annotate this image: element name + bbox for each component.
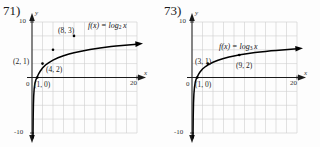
x-axis-label-71: x [144,70,147,77]
y-axis-label-71: y [35,10,38,17]
point-label-4-2-71: (4, 2) [46,66,62,74]
figure-71: 71) [0,0,160,147]
origin-label-73: 0 [186,81,190,88]
y-tick-10-71: 10 [19,18,26,25]
y-tick-neg10-73: -10 [174,129,183,136]
function-label-prefix-71: f(x) = log [88,21,119,30]
point-4-2 [52,49,55,52]
x-tick-20-73: 20 [290,80,297,87]
function-label-71: f(x) = log2x [88,22,127,30]
point-label-9-2-73: (9, 2) [236,62,252,70]
function-label-73: f(x) = log3x [219,43,258,51]
point-label-1-0-71: (1, 0) [34,81,50,89]
y-tick-neg10-71: -10 [14,129,23,136]
curve-log2 [33,44,138,138]
point-2-1 [41,62,44,65]
figure-page: 71) [0,0,320,147]
x-axis-label-73: x [304,70,307,77]
point-label-1-0-73: (1, 0) [195,81,211,89]
point-label-2-1-71: (2, 1) [13,58,29,66]
x-tick-20-71: 20 [130,80,137,87]
point-label-3-1-73: (3, 1) [195,58,211,66]
y-tick-10-73: 10 [179,18,186,25]
point-1-0 [36,76,39,79]
y-axis-label-73: y [195,10,198,17]
figure-73: 73) [160,0,320,147]
origin-label-71: 0 [26,81,30,88]
function-label-arg-73: x [252,42,257,51]
point-9-2 [238,54,241,57]
point-1-0 [196,76,199,79]
function-label-arg-71: x [121,21,126,30]
point-label-8-3-71: (8, 3) [58,27,74,35]
function-label-prefix-73: f(x) = log [219,42,250,51]
